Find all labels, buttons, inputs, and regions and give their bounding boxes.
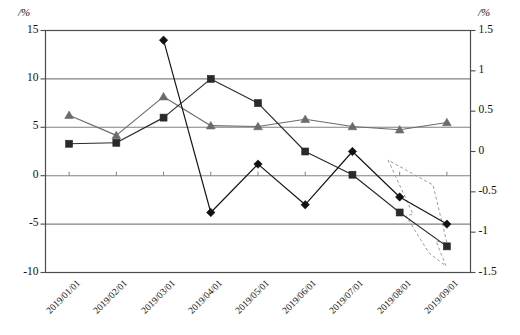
right-axis-tick-label: 0: [479, 144, 485, 156]
left-axis-tick-label: 5: [33, 119, 39, 131]
marker-triangle: [301, 115, 310, 122]
series-line-triangle-series: [258, 119, 305, 126]
marker-square: [443, 243, 450, 250]
marker-square: [113, 139, 120, 146]
series-line-diamond-series: [352, 152, 399, 197]
left-axis-tick-label: 15: [27, 23, 39, 35]
right-axis-tick-label: 0.5: [479, 103, 493, 115]
series-line-triangle-series: [305, 119, 352, 126]
series-line-triangle-series: [400, 122, 447, 129]
plot-frame: [46, 31, 471, 273]
marker-square: [396, 209, 403, 216]
right-axis-tick-label: -0.5: [479, 184, 497, 196]
series-line-diamond-series: [258, 164, 305, 205]
left-axis-tick-label: 0: [33, 168, 39, 180]
marker-triangle: [159, 92, 168, 99]
chart-container: /% /% 151050-5-10 1.510.50-0.5-1-1.5 201…: [0, 0, 520, 335]
right-axis-tick-label: -1.5: [479, 265, 497, 277]
marker-square: [255, 100, 262, 107]
left-axis-tick-label: 10: [27, 71, 39, 83]
series-line-diamond-series: [305, 152, 352, 205]
series-line-square-series: [400, 212, 447, 246]
marker-square: [349, 171, 356, 178]
marker-square: [302, 148, 309, 155]
left-axis-tick-label: -5: [29, 216, 39, 228]
right-axis-tick-label: -1: [479, 224, 489, 236]
left-axis-tick-label: -10: [23, 265, 38, 277]
series-line-diamond-series: [164, 40, 211, 212]
series-line-diamond-series: [211, 164, 258, 212]
marker-square: [160, 114, 167, 121]
series-line-square-series: [69, 143, 116, 144]
series-line-square-series: [305, 152, 352, 175]
series-line-square-series: [352, 175, 399, 213]
series-line-diamond-series: [400, 197, 447, 224]
marker-triangle: [65, 111, 74, 118]
series-line-triangle-series: [69, 115, 116, 135]
marker-square: [207, 75, 214, 82]
marker-square: [66, 140, 73, 147]
marker-diamond: [159, 36, 167, 44]
right-axis-tick-label: 1: [479, 63, 485, 75]
series-line-square-series: [211, 79, 258, 103]
right-axis-tick-label: 1.5: [479, 23, 493, 35]
marker-diamond: [443, 220, 451, 228]
marker-triangle: [442, 118, 451, 125]
series-line-triangle-series: [211, 126, 258, 127]
